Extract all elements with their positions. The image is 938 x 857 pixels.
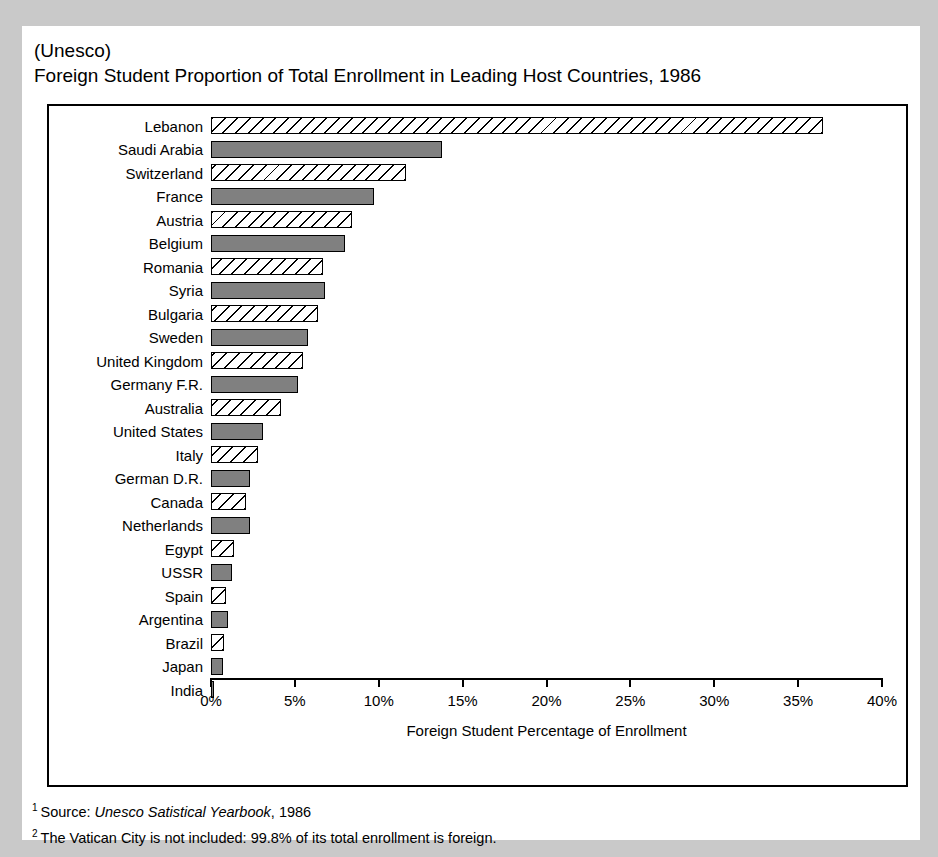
bar [211, 493, 246, 510]
x-axis-tick-label: 20% [531, 692, 561, 709]
bar-row: Argentina [211, 608, 882, 632]
footnote-text: The Vatican City is not included: 99.8% … [41, 830, 497, 846]
bar-row: Canada [211, 490, 882, 514]
bar-row: Syria [211, 279, 882, 303]
bar [211, 211, 352, 228]
bar-row: Egypt [211, 537, 882, 561]
bar-category-label: Egypt [165, 540, 203, 557]
bar-category-label: Netherlands [122, 517, 203, 534]
x-axis-tick-label: 40% [867, 692, 897, 709]
x-axis-tick-label: 5% [284, 692, 306, 709]
x-axis: Foreign Student Percentage of Enrollment… [211, 678, 882, 788]
bar-row: Sweden [211, 326, 882, 350]
x-axis-tick-label: 15% [448, 692, 478, 709]
bar [211, 188, 374, 205]
bar-row: Bulgaria [211, 302, 882, 326]
bar [211, 564, 232, 581]
bar [211, 282, 325, 299]
x-axis-tick-label: 10% [364, 692, 394, 709]
bar [211, 470, 250, 487]
bar [211, 446, 258, 463]
bar-row: Brazil [211, 631, 882, 655]
bar-row: German D.R. [211, 467, 882, 491]
bar-row: United States [211, 420, 882, 444]
bar [211, 258, 323, 275]
x-axis-tick [797, 678, 799, 687]
bar [211, 423, 263, 440]
x-axis-tick [210, 678, 212, 687]
x-axis-tick [713, 678, 715, 687]
x-axis-tick [462, 678, 464, 687]
bar [211, 399, 281, 416]
bar [211, 540, 234, 557]
bar-category-label: Lebanon [145, 117, 203, 134]
bar [211, 141, 442, 158]
x-axis-tick [294, 678, 296, 687]
bar [211, 634, 224, 651]
bar-category-label: Syria [169, 282, 203, 299]
bar-category-label: Spain [165, 587, 203, 604]
footnote-marker: 2 [32, 828, 38, 839]
bar-row: Austria [211, 208, 882, 232]
bar [211, 611, 228, 628]
bar-category-label: Australia [145, 399, 203, 416]
footnote-text-suffix: , 1986 [271, 804, 311, 820]
x-axis-title: Foreign Student Percentage of Enrollment [211, 722, 882, 739]
bar-category-label: Germany F.R. [110, 376, 203, 393]
footnote: 2The Vatican City is not included: 99.8%… [32, 823, 912, 849]
bar [211, 329, 308, 346]
bar-row: Germany F.R. [211, 373, 882, 397]
bar-row: Romania [211, 255, 882, 279]
bar-category-label: France [156, 188, 203, 205]
bar [211, 164, 406, 181]
bar-category-label: Saudi Arabia [118, 141, 203, 158]
chart-title: Foreign Student Proportion of Total Enro… [34, 63, 904, 88]
bar [211, 352, 303, 369]
source-tag: (Unesco) [34, 38, 904, 63]
bar [211, 658, 223, 675]
bar-row: Australia [211, 396, 882, 420]
bar-row: United Kingdom [211, 349, 882, 373]
chart-card: (Unesco) Foreign Student Proportion of T… [22, 26, 920, 840]
x-axis-tick-label: 25% [615, 692, 645, 709]
bar [211, 376, 298, 393]
footnote-text: Source: [41, 804, 95, 820]
bar-category-label: Switzerland [125, 164, 203, 181]
bar [211, 235, 345, 252]
bar-category-label: Sweden [149, 329, 203, 346]
x-axis-tick [881, 678, 883, 687]
footnote-source-title: Unesco Satistical Yearbook [95, 804, 271, 820]
bar [211, 117, 823, 134]
bar-category-label: Argentina [139, 611, 203, 628]
x-axis-tick [378, 678, 380, 687]
bar-category-label: USSR [161, 564, 203, 581]
bar-row: Belgium [211, 232, 882, 256]
bar-category-label: Austria [156, 211, 203, 228]
bar-category-label: Italy [175, 446, 203, 463]
bar-category-label: India [170, 681, 203, 698]
bar-category-label: United States [113, 423, 203, 440]
bar-row: Lebanon [211, 114, 882, 138]
bar-category-label: Belgium [149, 235, 203, 252]
title-block: (Unesco) Foreign Student Proportion of T… [34, 38, 904, 88]
bar-row: France [211, 185, 882, 209]
bar-category-label: German D.R. [115, 470, 203, 487]
footnote-marker: 1 [32, 802, 38, 813]
bar [211, 305, 318, 322]
bar-row: Saudi Arabia [211, 138, 882, 162]
bar-row: Netherlands [211, 514, 882, 538]
x-axis-tick-label: 35% [783, 692, 813, 709]
x-axis-tick [629, 678, 631, 687]
footnotes: 1Source: Unesco Satistical Yearbook, 198… [32, 797, 912, 849]
bar [211, 517, 250, 534]
bar-category-label: Bulgaria [148, 305, 203, 322]
bar-row: Spain [211, 584, 882, 608]
x-axis-tick-label: 30% [699, 692, 729, 709]
x-axis-tick [546, 678, 548, 687]
bar-category-label: Canada [150, 493, 203, 510]
bar-category-label: United Kingdom [96, 352, 203, 369]
footnote: 1Source: Unesco Satistical Yearbook, 198… [32, 797, 912, 823]
bar-category-label: Brazil [165, 634, 203, 651]
bar-row: Japan [211, 655, 882, 679]
bar [211, 587, 226, 604]
